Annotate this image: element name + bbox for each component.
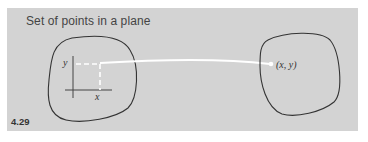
diagram-canvas: y x (x, y) (0, 0, 368, 142)
y-axis-label: y (62, 57, 68, 68)
right-region-outline (260, 33, 340, 115)
figure-number: 4.29 (11, 116, 30, 127)
x-axis-label: x (94, 91, 100, 102)
point-marker (269, 62, 274, 67)
left-region-outline (48, 36, 136, 121)
point-label: (x, y) (276, 59, 297, 71)
mapping-line (100, 60, 270, 64)
